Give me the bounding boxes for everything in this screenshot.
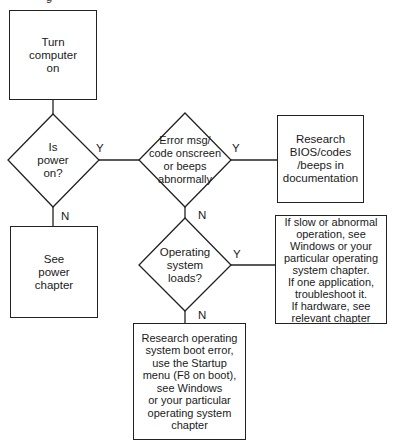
node-research-bios: Research BIOS/codes /beeps in documentat…	[277, 115, 364, 203]
edge-label-power-yes: Y	[96, 142, 104, 154]
node-research-boot-error: Research operating system boot error, us…	[133, 323, 246, 440]
edge-label-error-yes: Y	[232, 142, 240, 154]
node-see-power-chapter: See power chapter	[10, 226, 98, 318]
node-os-loads: Operating system loads?	[150, 236, 220, 294]
node-is-power-on: Is power on?	[20, 130, 86, 190]
edge-label-os-yes: Y	[233, 248, 241, 260]
node-turn-computer-on: Turn computer on	[9, 10, 97, 100]
edge-label-power-no: N	[61, 210, 69, 222]
edge-label-error-no: N	[198, 209, 206, 221]
node-error-msg: Error msg/ code onscreen or beeps abnorm…	[140, 128, 230, 192]
cropped-top-glyph: g	[46, 0, 52, 3]
node-slow-abnormal: If slow or abnormal operation, see Windo…	[275, 215, 387, 324]
edge-label-os-no: N	[198, 309, 206, 321]
